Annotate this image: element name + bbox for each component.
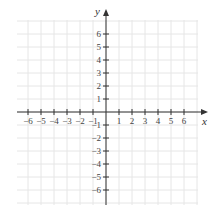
y-tick-label: 6: [97, 29, 102, 39]
axes: x y: [17, 5, 208, 205]
y-axis-arrow-icon: [103, 9, 109, 16]
x-tick-label: 5: [169, 116, 174, 126]
x-tick-label: −6: [23, 116, 33, 126]
x-tick-label: 6: [182, 116, 187, 126]
x-tick-label: −5: [36, 116, 46, 126]
y-tick-label: 4: [97, 55, 102, 65]
x-tick-label: 2: [130, 116, 135, 126]
y-tick-label: −3: [91, 146, 101, 156]
x-tick-label: 3: [143, 116, 148, 126]
y-tick-label: −1: [91, 120, 101, 130]
x-tick-label: −3: [62, 116, 72, 126]
x-tick-label: −2: [75, 116, 85, 126]
y-tick-label: −5: [91, 172, 101, 182]
coordinate-plane: x y −6−5−4−3−2−1123456654321−1−2−3−4−5−6: [0, 0, 220, 218]
y-tick-label: 2: [97, 81, 102, 91]
y-tick-label: −4: [91, 159, 101, 169]
x-tick-label: 4: [156, 116, 161, 126]
y-tick-label: 1: [97, 94, 102, 104]
y-tick-label: −6: [91, 185, 101, 195]
y-tick-label: −2: [91, 133, 101, 143]
x-tick-label: −4: [49, 116, 59, 126]
x-axis-label: x: [201, 115, 207, 127]
x-tick-label: 1: [117, 116, 122, 126]
y-tick-label: 5: [97, 42, 102, 52]
y-tick-label: 3: [97, 68, 102, 78]
y-axis-label: y: [94, 5, 100, 17]
